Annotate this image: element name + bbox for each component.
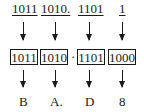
binary-group-2: 1010. xyxy=(41,2,70,16)
down-arrow-icon xyxy=(89,22,90,40)
hex-digit-2: A. xyxy=(50,95,63,109)
down-arrow-icon xyxy=(23,70,24,87)
hex-digit-3: D xyxy=(85,95,94,109)
binary-group-3: 1101 xyxy=(78,2,104,16)
hex-digit-4: 8 xyxy=(119,95,126,109)
padded-group-box-2: 1010 xyxy=(40,49,68,65)
down-arrow-icon xyxy=(23,22,24,40)
padded-group-box-1: 1011 xyxy=(10,49,38,65)
padded-group-box-4: 1000 xyxy=(108,49,136,65)
binary-group-4: 1 xyxy=(119,2,126,16)
down-arrow-icon xyxy=(55,22,56,40)
padded-group-box-3: 1101 xyxy=(77,49,105,65)
hex-digit-1: B xyxy=(19,95,28,109)
down-arrow-icon xyxy=(55,70,56,87)
binary-group-1: 1011 xyxy=(12,2,38,16)
down-arrow-icon xyxy=(89,70,90,87)
radix-point: · xyxy=(71,49,75,65)
down-arrow-icon xyxy=(122,70,123,87)
down-arrow-icon xyxy=(122,22,123,40)
